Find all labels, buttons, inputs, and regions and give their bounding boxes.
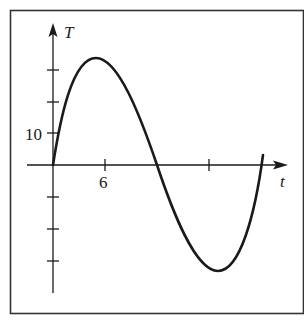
y-tick-label-10: 10 — [25, 125, 42, 144]
x-axis-label: t — [280, 172, 286, 191]
sinusoidal-temperature-graph: T t 10 6 — [0, 0, 304, 320]
y-axis-label: T — [64, 23, 75, 42]
x-tick-label-6: 6 — [99, 173, 108, 192]
